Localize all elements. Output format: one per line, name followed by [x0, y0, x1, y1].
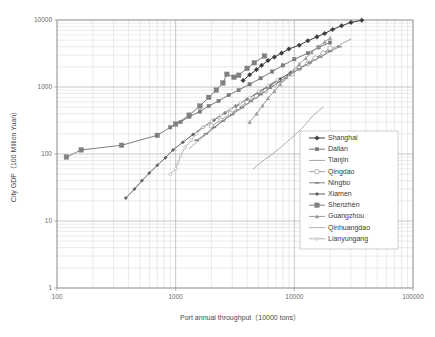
data-point-marker	[227, 93, 230, 96]
data-point-marker	[306, 38, 311, 43]
data-point-marker	[202, 126, 205, 129]
data-point-marker	[190, 139, 193, 142]
x-axis-tick-labels: 100100010000100000	[52, 293, 425, 300]
legend-item-label: Qinhuangdao	[328, 224, 370, 232]
data-point-marker	[279, 51, 284, 56]
data-point-marker	[270, 70, 273, 73]
data-point-marker	[64, 155, 69, 160]
legend-item-label: Shenzhen	[328, 201, 360, 208]
legend-item-label: Lianyungang	[328, 235, 368, 243]
data-point-marker	[119, 143, 124, 148]
data-point-marker	[225, 72, 230, 77]
x-tick-label: 100000	[402, 293, 424, 300]
data-point-marker	[229, 108, 232, 111]
data-point-marker	[237, 88, 240, 91]
data-point-marker	[330, 27, 335, 32]
data-point-marker	[179, 154, 182, 157]
series-shanghai	[241, 18, 364, 83]
data-point-marker	[214, 88, 219, 93]
data-point-marker	[219, 114, 222, 117]
data-point-marker	[339, 23, 344, 28]
data-point-marker	[248, 96, 251, 99]
data-point-marker	[359, 18, 364, 23]
legend-item-label: Ningbo	[328, 179, 350, 187]
data-point-marker	[287, 47, 292, 52]
x-tick-label: 1000	[168, 293, 183, 300]
data-point-marker	[232, 75, 237, 80]
data-point-marker	[315, 203, 320, 208]
data-point-marker	[169, 173, 172, 176]
scatter-line-chart: 100100010000100000 110100100010000 Port …	[0, 0, 435, 337]
y-tick-label: 1	[48, 284, 52, 291]
data-point-marker	[245, 66, 250, 71]
data-point-marker	[267, 84, 270, 87]
data-point-marker	[177, 161, 180, 164]
data-point-marker	[195, 132, 198, 135]
data-point-marker	[349, 20, 354, 25]
data-point-marker	[276, 78, 279, 81]
data-point-marker	[217, 99, 220, 102]
series-dalian	[169, 41, 332, 129]
data-point-marker	[79, 148, 84, 153]
y-tick-label: 10000	[34, 16, 52, 23]
data-point-marker	[328, 41, 331, 44]
data-point-marker	[198, 104, 203, 109]
chart-container: 100100010000100000 110100100010000 Port …	[0, 0, 435, 337]
y-tick-label: 1000	[38, 83, 53, 90]
legend-item-label: Dalian	[328, 145, 348, 152]
y-tick-label: 10	[45, 217, 53, 224]
data-point-marker	[257, 90, 260, 93]
data-point-marker	[293, 57, 296, 60]
x-axis-title: Port annual throughput（10000 tons）	[180, 314, 300, 322]
legend-item-label: Xiamen	[328, 190, 352, 197]
y-tick-label: 100	[41, 150, 52, 157]
data-point-marker	[252, 60, 257, 65]
legend-item-label: Qingdao	[328, 168, 355, 176]
series-polyline	[243, 20, 362, 80]
data-point-marker	[315, 169, 320, 174]
y-axis-title: City GDP（100 Million Yuan）	[10, 108, 18, 202]
legend-item-label: Guangzhou	[328, 212, 364, 220]
data-point-marker	[155, 133, 160, 138]
legend-item-label: Tianjin	[328, 156, 348, 164]
data-point-marker	[262, 54, 267, 59]
x-tick-label: 100	[52, 293, 63, 300]
data-point-marker	[281, 64, 284, 67]
data-point-marker	[259, 77, 262, 80]
data-point-marker	[316, 237, 319, 240]
legend-item-label: Shanghai	[328, 134, 358, 142]
data-point-marker	[236, 73, 241, 78]
data-point-marker	[328, 46, 333, 51]
x-tick-label: 10000	[285, 293, 303, 300]
data-point-marker	[210, 120, 213, 123]
data-point-marker	[173, 122, 178, 127]
data-point-marker	[187, 113, 192, 118]
data-point-marker	[315, 35, 320, 40]
data-point-marker	[221, 81, 226, 86]
data-point-marker	[206, 95, 211, 100]
data-point-marker	[184, 146, 187, 149]
data-point-marker	[248, 83, 251, 86]
data-point-marker	[198, 110, 201, 113]
data-point-marker	[239, 101, 242, 104]
chart-legend[interactable]: ShanghaiDalianTianjinQingdaoNingboXiamen…	[300, 131, 398, 249]
data-point-marker	[328, 36, 331, 39]
data-point-marker	[315, 148, 318, 151]
data-point-marker	[174, 168, 177, 171]
data-point-marker	[207, 104, 210, 107]
y-axis-tick-labels: 110100100010000	[34, 16, 52, 291]
